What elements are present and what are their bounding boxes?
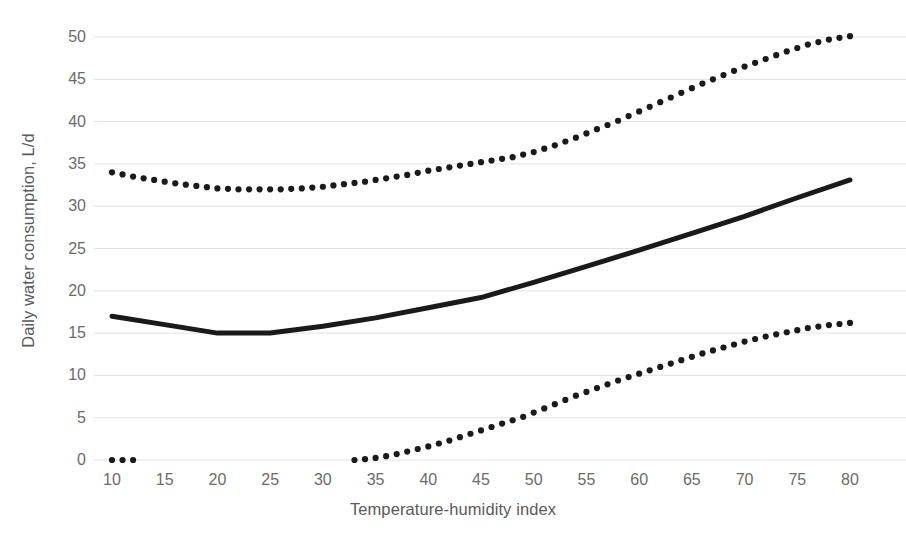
series-dot (583, 389, 589, 395)
series-dot (847, 33, 853, 39)
series-dot (720, 72, 726, 78)
series-dot (763, 56, 769, 62)
series-dot (520, 414, 526, 420)
series-dot (510, 154, 516, 160)
x-tick-label: 20 (195, 471, 239, 489)
x-tick-label: 30 (301, 471, 345, 489)
series-dot (141, 175, 147, 181)
series-dot (246, 186, 252, 192)
series-dot (699, 80, 705, 86)
y-tick-label: 35 (34, 155, 86, 173)
x-axis-title: Temperature-humidity index (0, 500, 906, 519)
series-dot (119, 171, 125, 177)
series-dot (657, 364, 663, 370)
series-dot (541, 405, 547, 411)
series-dot (267, 186, 273, 192)
series-dot (351, 180, 357, 186)
y-tick-label: 30 (34, 197, 86, 215)
series-dot (805, 325, 811, 331)
series-dot (552, 401, 558, 407)
series-dot (404, 172, 410, 178)
series-upper-dotted (109, 33, 853, 192)
series-dot (784, 48, 790, 54)
series-dot (425, 443, 431, 449)
series-dot (573, 135, 579, 141)
series-dot (836, 321, 842, 327)
x-tick-label: 15 (143, 471, 187, 489)
series-dot (826, 322, 832, 328)
series-dot (678, 90, 684, 96)
series-dot (805, 42, 811, 48)
series-dot (183, 182, 189, 188)
series-dot (457, 162, 463, 168)
series-dot (562, 397, 568, 403)
series-lower-dotted (351, 320, 853, 463)
series-dot (647, 367, 653, 373)
series-dot (320, 184, 326, 190)
series-dot (678, 357, 684, 363)
x-tick-label: 35 (354, 471, 398, 489)
y-tick-label: 50 (34, 28, 86, 46)
x-tick-label: 45 (459, 471, 503, 489)
series-dot (668, 360, 674, 366)
series-dot (531, 149, 537, 155)
series-dot (594, 126, 600, 132)
series-dot (699, 350, 705, 356)
series-dot (573, 393, 579, 399)
x-tick-label: 50 (512, 471, 556, 489)
series-dot (815, 39, 821, 45)
series-dot (446, 164, 452, 170)
series-dot (815, 323, 821, 329)
series-dot (151, 177, 157, 183)
series-dot (278, 186, 284, 192)
x-tick-label: 25 (248, 471, 292, 489)
series-dot (636, 371, 642, 377)
series-dot (425, 168, 431, 174)
x-tick-label: 40 (406, 471, 450, 489)
series-dot (836, 35, 842, 41)
series-dot (309, 184, 315, 190)
caption-sliver (0, 531, 906, 545)
series-dot (478, 159, 484, 165)
series-dot (162, 179, 168, 185)
series-dot (204, 184, 210, 190)
series-dot (299, 185, 305, 191)
y-tick-label: 5 (34, 409, 86, 427)
series-dot (362, 179, 368, 185)
series-dot (626, 374, 632, 380)
series-dot (731, 68, 737, 74)
series-dot (446, 437, 452, 443)
series-line (112, 180, 850, 333)
series-dot (657, 99, 663, 105)
series-dot (826, 36, 832, 42)
series-dot (541, 146, 547, 152)
series-dot (499, 156, 505, 162)
series-dot (594, 385, 600, 391)
series-dot (763, 333, 769, 339)
x-tick-label: 60 (617, 471, 661, 489)
series-dot (467, 161, 473, 167)
series-dot (604, 122, 610, 128)
x-tick-label: 55 (564, 471, 608, 489)
series-dot (415, 446, 421, 452)
series-dot (341, 181, 347, 187)
chart-figure: Daily water consumption, L/d 05101520253… (0, 0, 906, 545)
series-dot (710, 347, 716, 353)
series-dot (604, 381, 610, 387)
series-dot (372, 455, 378, 461)
chart-plot-svg (0, 0, 906, 545)
series-dot (752, 60, 758, 66)
series-dot (488, 424, 494, 430)
series-dot (214, 185, 220, 191)
gridlines (94, 37, 906, 460)
series-dot (741, 338, 747, 344)
series-dot (794, 327, 800, 333)
series-dot (383, 175, 389, 181)
series-dot (109, 169, 115, 175)
series-dot (720, 344, 726, 350)
x-tick-label: 65 (670, 471, 714, 489)
y-tick-label: 20 (34, 282, 86, 300)
series-dot (288, 186, 294, 192)
series-dot (488, 157, 494, 163)
series-dot (562, 138, 568, 144)
